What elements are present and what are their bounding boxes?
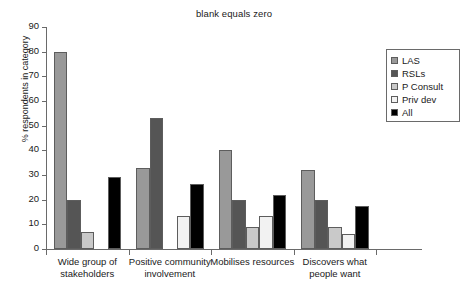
bar-group — [211, 27, 294, 249]
bar-chart-figure: blank equals zero % respondents in categ… — [0, 0, 468, 302]
bar — [150, 118, 164, 249]
y-axis-tick: 40 — [0, 150, 46, 151]
legend-swatch-icon — [391, 96, 398, 103]
bar — [108, 177, 122, 249]
bar — [355, 206, 369, 249]
legend-item-las[interactable]: LAS — [391, 54, 455, 66]
y-axis-tick-label: 0 — [34, 242, 39, 253]
category-label-line: people want — [284, 268, 387, 280]
bar — [259, 216, 273, 249]
category-label-line: involvement — [119, 268, 222, 280]
x-axis-separator — [294, 250, 295, 255]
y-axis-tick: 90 — [0, 27, 46, 28]
y-axis-tick: 60 — [0, 101, 46, 102]
y-axis-tick: 20 — [0, 200, 46, 201]
bar — [219, 150, 233, 249]
legend-swatch-icon — [391, 57, 398, 64]
legend-swatch-icon — [391, 109, 398, 116]
bar-group — [294, 27, 377, 249]
y-axis-tick-label: 40 — [28, 143, 39, 154]
bar — [315, 200, 329, 249]
y-axis-tick-label: 20 — [28, 193, 39, 204]
y-axis-tick: 10 — [0, 224, 46, 225]
bar — [232, 200, 246, 249]
chart-title: blank equals zero — [0, 8, 468, 19]
bar — [328, 227, 342, 249]
x-axis-separator — [46, 250, 47, 255]
legend-swatch-icon — [391, 70, 398, 77]
x-axis-separator — [376, 250, 377, 255]
bar — [67, 200, 81, 249]
bar — [190, 184, 204, 249]
y-axis-tick: 70 — [0, 76, 46, 77]
legend-label: RSLs — [402, 68, 425, 79]
bar — [273, 195, 287, 249]
x-axis-separator — [211, 250, 212, 255]
bar — [301, 170, 315, 249]
legend-label: All — [402, 107, 413, 118]
y-axis-tick-label: 60 — [28, 94, 39, 105]
chart-legend: LASRSLsP ConsultPriv devAll — [386, 49, 460, 122]
bar — [54, 52, 68, 249]
y-axis-tick-label: 50 — [28, 119, 39, 130]
y-axis-tick: 30 — [0, 175, 46, 176]
x-axis-category-label: Discovers whatpeople want — [284, 256, 387, 280]
legend-swatch-icon — [391, 83, 398, 90]
legend-item-p-consult[interactable]: P Consult — [391, 80, 455, 92]
bar — [246, 227, 260, 249]
y-axis-tick: 50 — [0, 126, 46, 127]
legend-label: LAS — [402, 55, 420, 66]
bar — [177, 216, 191, 249]
bar — [342, 234, 356, 249]
bar-group — [129, 27, 212, 249]
y-axis-tick-label: 10 — [28, 217, 39, 228]
bar-group — [46, 27, 129, 249]
category-label-line: Discovers what — [284, 256, 387, 268]
legend-item-rsls[interactable]: RSLs — [391, 67, 455, 79]
legend-item-priv-dev[interactable]: Priv dev — [391, 93, 455, 105]
x-axis-line — [46, 249, 422, 250]
bar — [81, 232, 95, 249]
y-axis-tick-label: 90 — [28, 20, 39, 31]
bar — [136, 168, 150, 249]
plot-area — [46, 27, 376, 249]
y-axis-tick-label: 70 — [28, 69, 39, 80]
x-axis-separator — [129, 250, 130, 255]
legend-label: Priv dev — [402, 94, 436, 105]
y-axis-tick: 0 — [0, 249, 46, 250]
y-axis-tick: 80 — [0, 52, 46, 53]
y-axis-tick-label: 80 — [28, 45, 39, 56]
legend-label: P Consult — [402, 81, 443, 92]
y-axis-tick-label: 30 — [28, 168, 39, 179]
legend-item-all[interactable]: All — [391, 106, 455, 118]
